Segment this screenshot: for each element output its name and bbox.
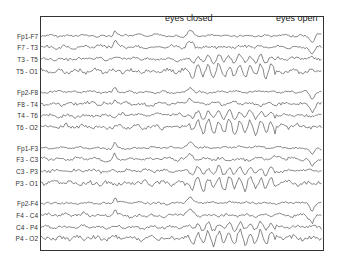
- eeg-channel-trace: [41, 98, 322, 113]
- eeg-channel-trace: [41, 209, 322, 224]
- eeg-channel-trace: [41, 119, 322, 136]
- eeg-channel-trace: [41, 197, 322, 211]
- eeg-channel-trace: [41, 221, 322, 232]
- eeg-channel-trace: [41, 153, 322, 166]
- eeg-channel-trace: [41, 229, 322, 247]
- eeg-channel-trace: [41, 110, 322, 120]
- eeg-channel-trace: [41, 54, 322, 64]
- eeg-traces: [0, 0, 345, 266]
- eeg-channel-trace: [41, 63, 322, 79]
- eeg-channel-trace: [41, 88, 322, 100]
- eeg-channel-trace: [41, 177, 322, 192]
- eeg-channel-trace: [41, 41, 322, 54]
- eeg-channel-trace: [41, 166, 322, 177]
- eeg-channel-trace: [41, 30, 322, 42]
- eeg-channel-trace: [41, 142, 322, 155]
